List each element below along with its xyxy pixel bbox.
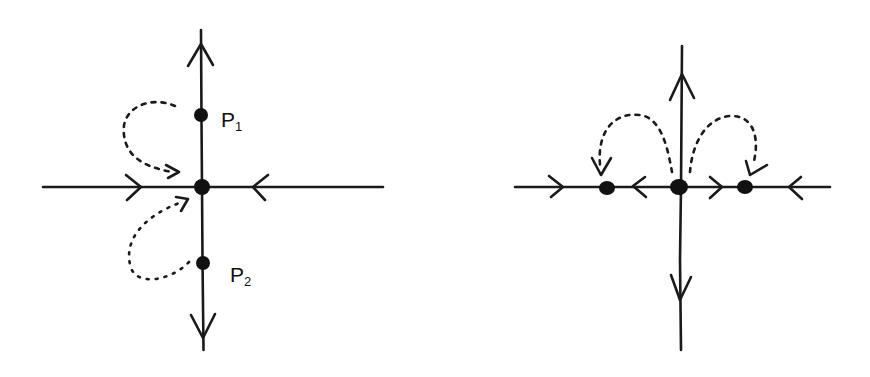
orbit-p2-to-origin (129, 202, 189, 279)
left-phase-portrait: P1 P2 (43, 30, 383, 350)
orbit-origin-to-left (600, 115, 672, 172)
fixed-point-right (737, 180, 753, 194)
orbit-arrowhead-icon (592, 158, 611, 175)
fixed-point-origin-left (194, 179, 210, 195)
fixed-point-left (599, 181, 615, 195)
fixed-point-p2 (196, 256, 210, 270)
orbit-p1-to-origin (124, 102, 175, 172)
orbit-arrowhead-icon (746, 161, 767, 175)
label-p2: P2 (230, 263, 251, 289)
phase-portrait-figure: P1 P2 (0, 0, 870, 377)
fixed-point-origin-right (670, 179, 688, 195)
label-p1: P1 (221, 108, 242, 134)
right-vertical-axis (680, 46, 682, 350)
right-phase-portrait (515, 46, 830, 350)
fixed-point-p1 (194, 108, 208, 122)
